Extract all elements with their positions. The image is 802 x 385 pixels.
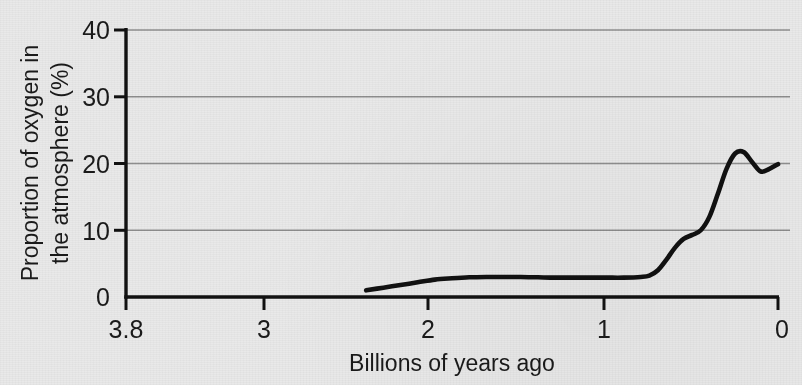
oxygen-history-chart-figure: 40 30 20 10 0 3.8 3 2 1 0 Billions of ye… xyxy=(0,0,802,385)
y-tick-label-0: 0 xyxy=(96,283,110,311)
gridlines-horizontal xyxy=(126,30,790,230)
x-tick-label-1: 1 xyxy=(597,315,611,343)
chart-canvas: 40 30 20 10 0 3.8 3 2 1 0 Billions of ye… xyxy=(0,0,802,385)
x-tick-label-3.8: 3.8 xyxy=(109,315,144,343)
y-axis-title-line1: Proportion of oxygen in xyxy=(17,45,43,282)
y-tick-label-30: 30 xyxy=(82,83,110,111)
y-axis-title: Proportion of oxygen in the atmosphere (… xyxy=(17,45,73,282)
x-tick-label-0: 0 xyxy=(775,315,789,343)
x-axis-title: Billions of years ago xyxy=(349,350,555,376)
x-tick-label-3: 3 xyxy=(257,315,271,343)
x-axis-ticks xyxy=(126,297,778,310)
y-tick-label-10: 10 xyxy=(82,217,110,245)
oxygen-curve xyxy=(366,151,778,290)
y-axis-ticks xyxy=(114,30,126,230)
y-tick-label-40: 40 xyxy=(82,16,110,44)
y-tick-label-20: 20 xyxy=(82,150,110,178)
y-axis-title-line2: the atmosphere (%) xyxy=(47,62,73,264)
x-tick-label-2: 2 xyxy=(421,315,435,343)
